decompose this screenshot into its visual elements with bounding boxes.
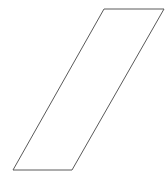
parallelogram-shape (13, 9, 164, 170)
parallelogram-figure (0, 0, 167, 179)
figure-canvas (0, 0, 167, 179)
